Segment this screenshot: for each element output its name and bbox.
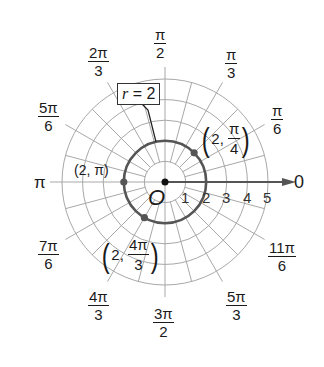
radial-tick-4: 4 [243,189,251,206]
angle-label-7pi-over-6: 7π6 [38,238,59,271]
angle-label-4pi-over-3: 4π3 [88,289,109,322]
radial-tick-5: 5 [263,189,271,206]
angle-label-pi-over-6: π6 [271,103,283,136]
angle-label-5pi-over-6: 5π6 [38,100,59,133]
plotted-point-1 [120,178,127,185]
angle-label-11pi-over-6: 11π6 [268,240,296,273]
angle-label-0: 0 [294,173,304,191]
radial-tick-3: 3 [222,189,230,206]
pole-label: O [148,187,165,209]
grid-ray-300 [175,200,222,282]
point-label-2-pi-over-4: ( 2, π4 ) [200,120,252,157]
grid-ray-15 [185,155,265,176]
angle-label-pi: π [34,174,46,191]
angle-label-pi-over-2: π2 [154,27,166,60]
angle-label-5pi-over-3: 5π3 [226,289,247,322]
radial-tick-2: 2 [202,189,210,206]
grid-ray-195 [66,187,146,208]
grid-ray-75 [170,83,191,163]
point-label-2-pi: (2, π) [74,162,109,178]
grid-ray-210 [65,192,147,239]
r-variable: r [122,85,128,102]
grid-ray-135 [92,109,150,167]
polar-graph: π2 π3 2π3 π6 5π6 π 0 7π6 11π6 4π3 3π2 5π… [0,0,324,367]
r-value: 2 [146,85,155,102]
radial-tick-1: 1 [181,189,189,206]
grid-ray-285 [170,202,191,282]
curve-equation-box: r = 2 [117,83,160,105]
point-label-2-4pi-over-3: ( 2, 4π3 ) [100,236,160,273]
angle-label-3pi-over-2: 3π2 [153,306,174,339]
angle-label-2pi-over-3: 2π3 [88,45,109,78]
callout-leader [140,102,156,142]
plotted-point-2 [141,214,148,221]
angle-label-pi-over-3: π3 [225,47,237,80]
plotted-point-0 [191,149,198,156]
